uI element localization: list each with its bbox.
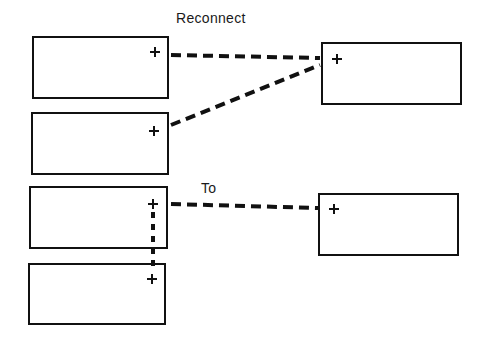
node-box-right-2[interactable] [319,194,458,255]
diagram-canvas [0,0,483,339]
node-box-right-1[interactable] [322,43,461,104]
node-box-left-4[interactable] [29,264,165,324]
node-box-left-1[interactable] [33,37,168,98]
to-label: To [201,180,216,196]
connection-left3-right2[interactable] [171,204,318,208]
node-box-left-3[interactable] [30,187,167,248]
connection-left1-right1[interactable] [171,55,320,58]
reconnect-label: Reconnect [176,10,246,26]
node-box-left-2[interactable] [32,113,168,174]
connection-left2-right1[interactable] [171,65,320,125]
